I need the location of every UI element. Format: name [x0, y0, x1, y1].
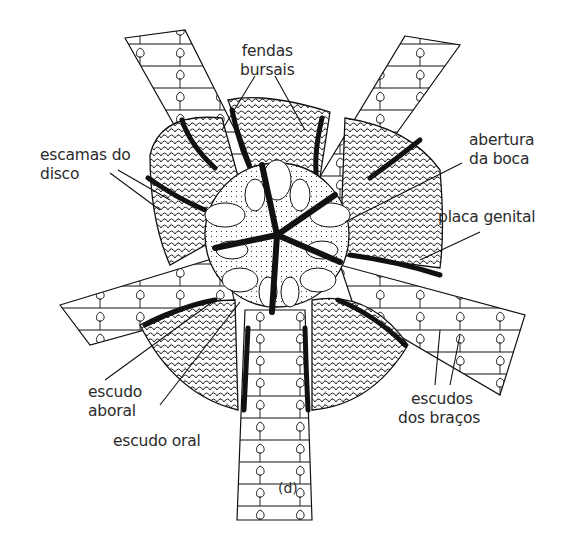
- figure-caption: (d): [278, 480, 298, 496]
- label-line: da boca: [469, 150, 534, 169]
- label-line: bursais: [240, 61, 295, 80]
- label-line: placa genital: [438, 208, 535, 227]
- label-fendas-bursais: fendas bursais: [240, 42, 295, 80]
- label-escudos-dos-bracos: escudos dos braços: [398, 390, 480, 428]
- label-line: escudos: [398, 390, 480, 409]
- label-line: escudo oral: [113, 432, 201, 451]
- label-line: disco: [40, 165, 131, 184]
- label-escudo-aboral: escudo aboral: [88, 383, 142, 421]
- label-escudo-oral: escudo oral: [113, 432, 201, 451]
- label-escamas-do-disco: escamas do disco: [40, 146, 131, 184]
- label-line: escudo: [88, 383, 142, 402]
- label-line: fendas: [240, 42, 295, 61]
- label-placa-genital: placa genital: [438, 208, 535, 227]
- label-line: aboral: [88, 402, 142, 421]
- brittle-star-diagram: fendas bursais abertura da boca placa ge…: [0, 0, 576, 535]
- label-abertura-da-boca: abertura da boca: [469, 131, 534, 169]
- label-line: abertura: [469, 131, 534, 150]
- label-line: escamas do: [40, 146, 131, 165]
- label-line: dos braços: [398, 409, 480, 428]
- brittle-star-illustration: [0, 0, 576, 535]
